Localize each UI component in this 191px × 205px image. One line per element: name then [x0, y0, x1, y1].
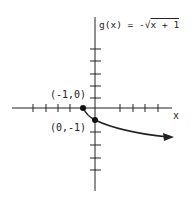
curve-arrow-icon	[163, 133, 174, 141]
point-label-neg1-0: (-1,0)	[50, 90, 86, 100]
x-axis-label: x	[173, 111, 179, 121]
title-radicand: x + 1	[151, 19, 180, 30]
point-label-0-neg1: (0,-1)	[50, 123, 86, 133]
title-prefix: g(x) = -	[99, 19, 145, 30]
function-title: g(x) = -√x + 1	[99, 20, 179, 30]
point-0-neg1	[92, 117, 98, 123]
graph-canvas	[0, 0, 191, 205]
point-neg1-0	[80, 105, 86, 111]
